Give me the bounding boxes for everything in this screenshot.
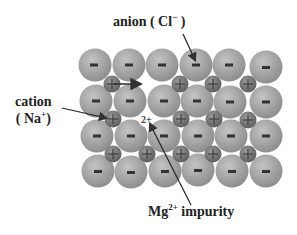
anion bbox=[213, 49, 246, 82]
cation bbox=[172, 76, 189, 93]
cation bbox=[205, 76, 222, 93]
anion-label: anion ( Cl− ) bbox=[113, 15, 185, 29]
anion bbox=[79, 49, 112, 82]
cation bbox=[139, 146, 156, 163]
impurity-label: Mg2+ impurity bbox=[148, 205, 234, 219]
cation bbox=[205, 146, 222, 163]
svg-text:2+: 2+ bbox=[141, 114, 152, 125]
cation bbox=[240, 146, 257, 163]
cation bbox=[105, 111, 122, 128]
anion bbox=[146, 49, 179, 82]
ionic-lattice-diagram: 2+ anion ( Cl− ) cation ( Na+) Mg2+ impu… bbox=[0, 0, 297, 235]
cation bbox=[240, 76, 257, 93]
mg-impurity-site: 2+ bbox=[138, 111, 154, 127]
anion bbox=[180, 49, 213, 82]
cation bbox=[206, 111, 223, 128]
cation bbox=[240, 112, 257, 129]
cation bbox=[173, 111, 190, 128]
anion bbox=[250, 86, 283, 119]
cation bbox=[173, 146, 190, 163]
cation bbox=[105, 146, 122, 163]
anion bbox=[113, 49, 146, 82]
cation-label: cation ( Na+) bbox=[15, 93, 52, 127]
